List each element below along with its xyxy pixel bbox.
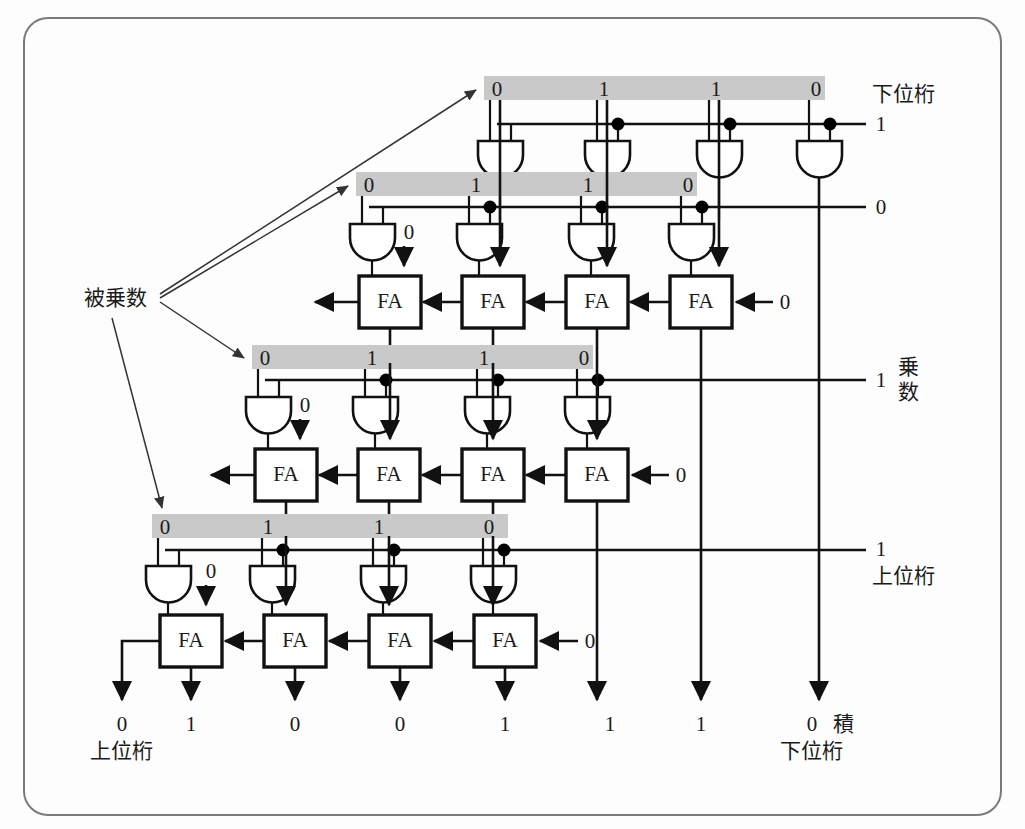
row-2-bit-1: 1 <box>471 173 482 197</box>
row-3-right-label-char-2: 数 <box>898 380 919 404</box>
row-2-carry-in-label: 0 <box>780 290 791 314</box>
junction-dot <box>498 544 511 557</box>
fa-label: FA <box>282 628 308 652</box>
multiplier-circuit-diagram: 0 1 1 0 1 下位桁 0 1 1 <box>0 0 1025 829</box>
callout-arrow-row-2 <box>160 186 348 298</box>
row-3-band <box>252 345 593 369</box>
and-gate-4-2 <box>250 566 295 603</box>
product-lower-digit-label: 下位桁 <box>780 739 843 763</box>
product-bit-2: 0 <box>290 712 301 736</box>
row-3-bit-3: 0 <box>579 346 590 370</box>
junction-dot <box>612 118 625 131</box>
row-3-extra-input-label: 0 <box>300 393 311 417</box>
and-gate-3-3 <box>465 397 510 434</box>
product-bit-4: 1 <box>500 712 511 736</box>
final-carry-out-wire <box>122 641 160 700</box>
row-3-carry-in-label: 0 <box>676 463 687 487</box>
row-4-bit-1: 1 <box>263 515 274 539</box>
figure-canvas: 0 1 1 0 1 下位桁 0 1 1 <box>0 0 1025 829</box>
product-label: 積 <box>833 712 854 736</box>
and-gate-2-4 <box>669 224 714 261</box>
row-2-bit-0: 0 <box>364 173 375 197</box>
fa-label: FA <box>273 462 299 486</box>
fa-label: FA <box>480 289 506 313</box>
row-4-right-label: 上位桁 <box>872 564 935 588</box>
product-bit-1: 1 <box>186 712 197 736</box>
and-gate-2-1 <box>350 224 395 260</box>
fa-label: FA <box>492 628 518 652</box>
fa-label: FA <box>387 628 413 652</box>
row-1-multiplier-bit: 1 <box>876 112 887 136</box>
figure-frame <box>24 18 1001 815</box>
and-gate-3-1 <box>246 397 291 434</box>
junction-dot <box>484 201 497 214</box>
fa-label: FA <box>376 462 402 486</box>
row-2-multiplier-bit: 0 <box>876 195 887 219</box>
row-1-bit-0: 0 <box>492 77 503 101</box>
junction-dot <box>696 201 709 214</box>
row-3-multiplier-bit: 1 <box>876 368 887 392</box>
and-gate-2-2 <box>457 224 502 261</box>
row-4-band <box>152 514 508 538</box>
and-gate-3-4 <box>565 397 610 434</box>
row-2-bit-3: 0 <box>683 173 694 197</box>
row-3-bit-2: 1 <box>479 346 490 370</box>
row-3-bit-1: 1 <box>367 346 378 370</box>
row-3-bit-0: 0 <box>260 346 271 370</box>
junction-dot <box>277 544 290 557</box>
row-3-right-label-char-1: 乗 <box>898 355 919 379</box>
product-outputs: 0 1 0 0 1 1 1 0 積 上位桁 下位桁 <box>90 712 854 763</box>
product-upper-digit-label: 上位桁 <box>90 739 153 763</box>
fa-label: FA <box>584 289 610 313</box>
row-4-multiplier-bit: 1 <box>876 537 887 561</box>
and-gate-4-3 <box>361 566 406 603</box>
fa-label: FA <box>178 628 204 652</box>
row-4-bit-2: 1 <box>374 515 385 539</box>
product-bit-7: 0 <box>807 712 818 736</box>
product-bit-6: 1 <box>696 712 707 736</box>
multiplicand-label: 被乗数 <box>84 286 147 310</box>
row-1-bit-1: 1 <box>599 77 610 101</box>
product-bit-0: 0 <box>117 712 128 736</box>
row-4-bit-0: 0 <box>160 515 171 539</box>
row-4: 0 1 1 0 1 上位桁 0 FA FA <box>122 514 935 700</box>
callout-arrow-row-3 <box>160 302 244 358</box>
fa-label: FA <box>480 462 506 486</box>
row-4-extra-input-label: 0 <box>206 559 217 583</box>
row-1-bit-3: 0 <box>811 77 822 101</box>
and-gate-1-4 <box>797 141 842 178</box>
row-2-bit-2: 1 <box>583 173 594 197</box>
fa-label: FA <box>688 289 714 313</box>
row-4-bit-3: 0 <box>484 515 495 539</box>
product-bit-5: 1 <box>605 712 616 736</box>
fa-label: FA <box>584 462 610 486</box>
row-2-extra-input-label: 0 <box>404 220 415 244</box>
row-1-right-label: 下位桁 <box>872 82 935 106</box>
junction-dot <box>724 118 737 131</box>
and-gate-4-1 <box>146 566 191 602</box>
row-1-bit-2: 1 <box>711 77 722 101</box>
junction-dot <box>824 118 837 131</box>
row-2-band <box>356 172 697 196</box>
row-1: 0 1 1 0 1 下位桁 <box>478 76 935 700</box>
row-1-band <box>484 76 825 100</box>
product-bit-3: 0 <box>395 712 406 736</box>
callout-arrow-row-4 <box>112 318 162 508</box>
row-4-carry-in-label: 0 <box>585 629 596 653</box>
fa-label: FA <box>377 289 403 313</box>
